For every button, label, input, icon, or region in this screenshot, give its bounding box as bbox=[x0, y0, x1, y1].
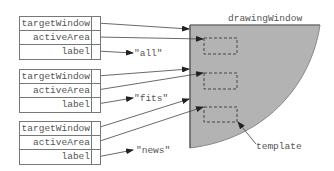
template-label: template bbox=[256, 141, 302, 153]
field-label: targetWindow bbox=[22, 122, 90, 136]
window-record-1: targetWindow activeArea label bbox=[19, 16, 101, 60]
pointer-slot bbox=[91, 45, 100, 59]
field-label: label bbox=[20, 45, 100, 59]
field-label: activeArea bbox=[33, 31, 90, 45]
field-active-area: activeArea bbox=[20, 84, 100, 98]
field-target-window: targetWindow bbox=[20, 17, 100, 31]
pointer-slot bbox=[91, 136, 100, 149]
field-label: targetWindow bbox=[22, 17, 90, 31]
label-value-3: "news" bbox=[136, 145, 170, 157]
field-label: activeArea bbox=[33, 136, 90, 150]
field-label: label bbox=[61, 150, 90, 164]
pointer-slot bbox=[91, 17, 100, 30]
field-active-area: activeArea bbox=[20, 31, 100, 45]
field-label: activeArea bbox=[33, 84, 90, 98]
label-value-1: "all" bbox=[134, 48, 163, 60]
drawing-window-title: drawingWindow bbox=[228, 13, 302, 25]
pointer-slot bbox=[91, 31, 100, 44]
field-label: label bbox=[20, 150, 100, 164]
pointer-slot bbox=[91, 84, 100, 97]
field-label: targetWindow bbox=[22, 70, 90, 84]
diagram-canvas: drawingWindow targetWindow activeArea la… bbox=[0, 0, 334, 171]
label-value-2: "fits" bbox=[134, 93, 168, 105]
window-record-3: targetWindow activeArea label bbox=[19, 121, 101, 165]
pointer-slot bbox=[91, 150, 100, 164]
field-target-window: targetWindow bbox=[20, 122, 100, 136]
pointer-slot bbox=[91, 70, 100, 83]
window-record-2: targetWindow activeArea label bbox=[19, 69, 101, 113]
pointer-slot bbox=[91, 122, 100, 135]
field-active-area: activeArea bbox=[20, 136, 100, 150]
field-label: label bbox=[20, 98, 100, 112]
field-target-window: targetWindow bbox=[20, 70, 100, 84]
drawing-window-area bbox=[190, 25, 320, 148]
field-label: label bbox=[61, 45, 90, 59]
pointer-slot bbox=[91, 98, 100, 112]
field-label: label bbox=[61, 98, 90, 112]
